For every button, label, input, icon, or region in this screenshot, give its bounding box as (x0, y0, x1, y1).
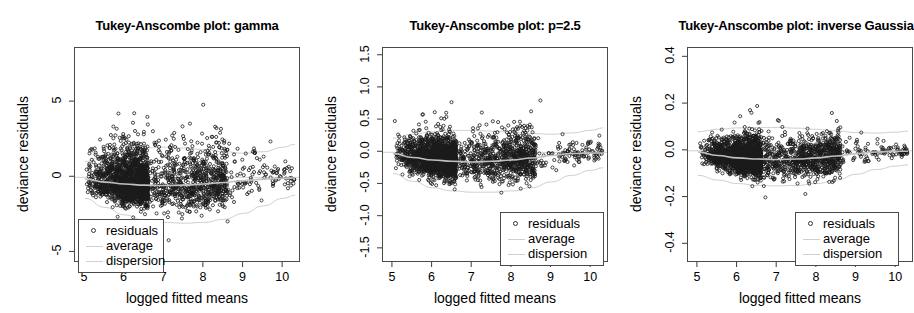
x-tick-label: 10 (875, 270, 914, 284)
legend-label: average (823, 231, 870, 246)
legend-item: residuals (801, 216, 892, 231)
x-axis-label: logged fitted means (687, 290, 913, 306)
chart-panel-3: Tukey-Anscombe plot: inverse Gaussian567… (0, 0, 914, 313)
y-tick-label: -0.4 (663, 222, 677, 262)
x-tick-label: 6 (717, 270, 757, 284)
x-tick-label: 9 (836, 270, 876, 284)
y-tick-label: 0.0 (663, 129, 677, 169)
line-marker-icon (801, 247, 823, 261)
x-tick-label: 5 (677, 270, 717, 284)
tukey-anscombe-figure: Tukey-Anscombe plot: gamma5678910-505log… (0, 0, 914, 313)
legend-item: average (801, 231, 892, 246)
line-glyph (803, 254, 820, 255)
chart-legend: residualsaveragedispersion (795, 212, 899, 266)
y-axis-label: deviance residuals (627, 31, 643, 276)
circle-marker-icon (801, 217, 823, 231)
legend-label: dispersion (823, 246, 882, 261)
line-glyph (803, 239, 820, 240)
circle-glyph (808, 221, 813, 226)
y-tick-label: 0.4 (663, 35, 677, 75)
line-marker-icon (801, 232, 823, 246)
x-tick-label: 8 (796, 270, 836, 284)
legend-item: dispersion (801, 246, 892, 261)
y-tick-label: 0.2 (663, 82, 677, 122)
panel-title: Tukey-Anscombe plot: inverse Gaussian (647, 18, 914, 33)
legend-label: residuals (823, 216, 875, 231)
x-tick-label: 7 (756, 270, 796, 284)
y-tick-label: -0.2 (663, 176, 677, 216)
